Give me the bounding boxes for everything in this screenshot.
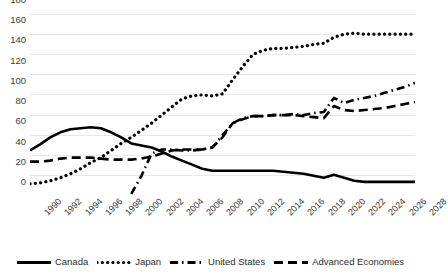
legend-item-advanced-economies[interactable]: Advanced Economies (274, 257, 404, 267)
y-tick-label: 120 (0, 56, 26, 66)
plot-area (30, 14, 415, 196)
x-tick-label: 2016 (306, 197, 327, 218)
x-tick-label: 2010 (245, 197, 266, 218)
y-tick-label: 60 (0, 117, 26, 127)
legend-label: Canada (55, 257, 88, 267)
chart-legend: CanadaJapanUnited StatesAdvanced Economi… (0, 252, 421, 272)
series-line-japan (30, 33, 415, 184)
y-tick-label: 140 (0, 36, 26, 46)
x-tick-label: 1998 (124, 197, 145, 218)
x-tick-label: 2024 (387, 197, 408, 218)
y-tick-label: 0 (0, 177, 26, 187)
y-tick-label: 40 (0, 137, 26, 147)
y-tick-label: 160 (0, 15, 26, 25)
x-tick-label: 2026 (408, 197, 429, 218)
x-tick-label: 2002 (164, 197, 185, 218)
legend-swatch-dashdot (170, 258, 204, 267)
x-tick-label: 1994 (83, 197, 104, 218)
y-tick-label: 100 (0, 76, 26, 86)
x-tick-label: 2028 (428, 197, 448, 218)
y-tick-label: 80 (0, 96, 26, 106)
x-tick-label: 2020 (347, 197, 368, 218)
y-axis: 020406080100120140160180 (0, 0, 26, 196)
series-line-united-states (131, 83, 415, 194)
legend-swatch-dashed (274, 258, 308, 267)
legend-label: Japan (135, 257, 161, 267)
series-line-advanced-economies (30, 102, 415, 162)
legend-item-canada[interactable]: Canada (17, 257, 88, 267)
x-tick-label: 2008 (225, 197, 246, 218)
y-tick-label: 180 (0, 0, 26, 5)
x-tick-label: 2022 (367, 197, 388, 218)
x-tick-label: 2004 (185, 197, 206, 218)
x-tick-label: 2012 (266, 197, 287, 218)
legend-label: United States (208, 257, 265, 267)
x-tick-label: 1990 (43, 197, 64, 218)
x-tick-label: 2006 (205, 197, 226, 218)
legend-swatch-dotted (97, 258, 131, 267)
x-tick-label: 2000 (144, 197, 165, 218)
legend-item-japan[interactable]: Japan (97, 257, 161, 267)
x-tick-label: 1996 (104, 197, 125, 218)
x-tick-label: 1992 (63, 197, 84, 218)
legend-item-united-states[interactable]: United States (170, 257, 265, 267)
legend-swatch-solid (17, 258, 51, 267)
x-axis: 1990199219941996199820002002200420062008… (30, 197, 415, 245)
x-tick-label: 2018 (327, 197, 348, 218)
y-tick-label: 20 (0, 157, 26, 167)
x-tick-label: 2014 (286, 197, 307, 218)
plot-svg (30, 14, 415, 196)
legend-label: Advanced Economies (312, 257, 404, 267)
